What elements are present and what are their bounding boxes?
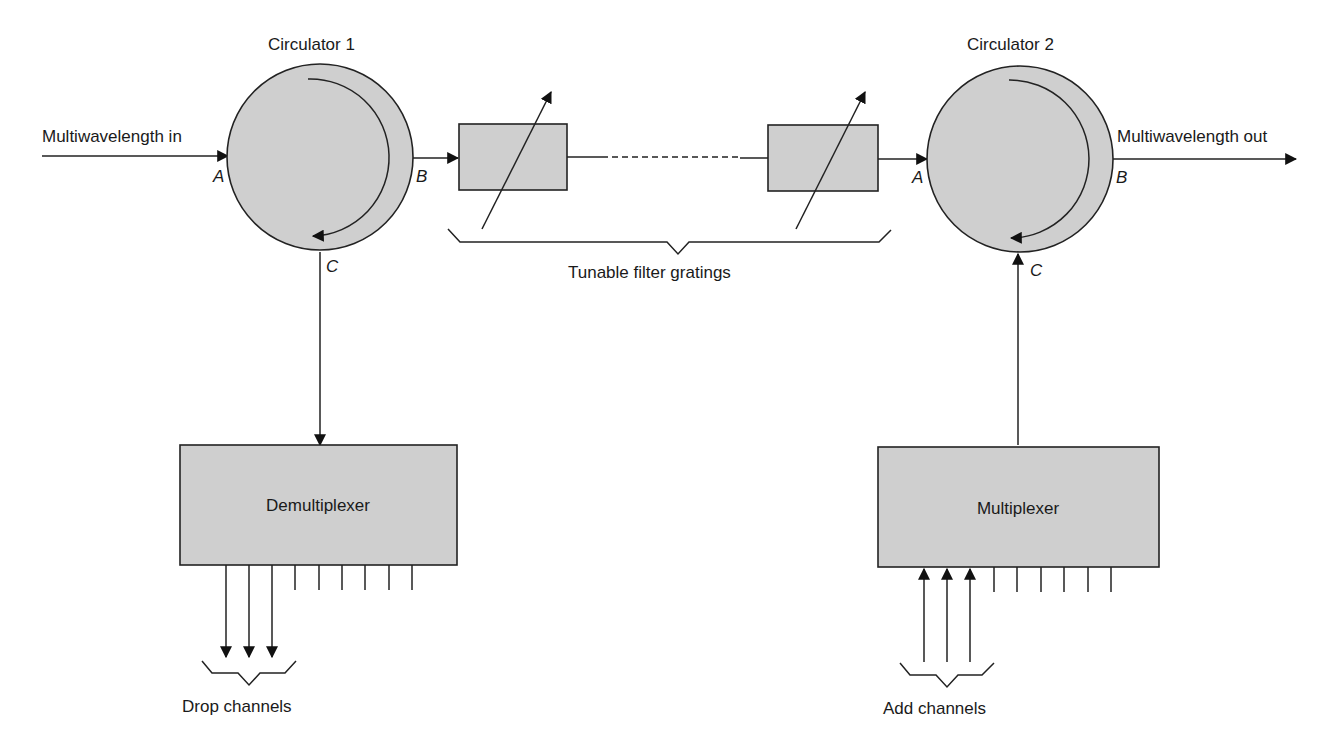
circulator-1-port-a: A [212, 167, 224, 186]
circulator-2-label: Circulator 2 [967, 35, 1054, 54]
circulator-2-port-b: B [1116, 168, 1127, 187]
circulator-2-port-a: A [911, 168, 923, 187]
drop-channel-arrows [226, 565, 272, 657]
demux-unused-ports [295, 565, 412, 590]
circulator-1-port-c: C [326, 257, 339, 276]
circulator-2 [927, 66, 1113, 252]
tunable-grating-2 [768, 92, 878, 229]
demultiplexer-label: Demultiplexer [266, 496, 370, 515]
circulator-1-label: Circulator 1 [268, 35, 355, 54]
add-channel-arrows [924, 569, 970, 662]
output-label: Multiwavelength out [1117, 127, 1268, 146]
input-label: Multiwavelength in [42, 127, 182, 146]
circulator-2-port-c: C [1030, 261, 1043, 280]
tunable-grating-1 [459, 92, 567, 229]
add-channels-label: Add channels [883, 699, 986, 718]
drop-brace [202, 661, 296, 685]
gratings-label: Tunable filter gratings [568, 263, 731, 282]
gratings-brace [448, 229, 891, 254]
mux-unused-ports [994, 567, 1111, 592]
add-brace [900, 663, 994, 687]
add-drop-diagram: Multiwavelength in Circulator 1 A B C Tu… [0, 0, 1328, 751]
drop-channels-label: Drop channels [182, 697, 292, 716]
circulator-1 [227, 64, 413, 250]
multiplexer-label: Multiplexer [977, 499, 1060, 518]
circulator-1-port-b: B [416, 167, 427, 186]
